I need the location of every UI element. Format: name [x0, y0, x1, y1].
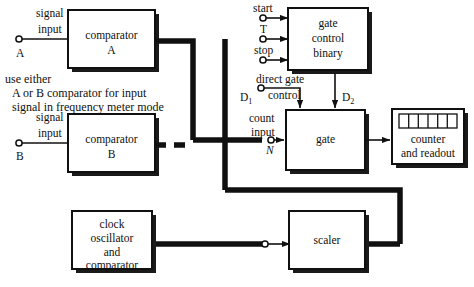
- count-input-name-n: N: [265, 144, 275, 156]
- counter-label-2: and readout: [401, 147, 456, 159]
- counter-label-1: counter: [411, 133, 446, 145]
- direct-gate-label: direct gate: [256, 73, 304, 86]
- d2-label: D2: [342, 91, 354, 106]
- gate-label: gate: [316, 133, 335, 146]
- gate-control-binary-label-1: gate: [318, 17, 337, 30]
- signal-input-b-label-2: input: [38, 127, 62, 140]
- clock-label-2: oscillator: [91, 232, 134, 244]
- t-label: T: [260, 23, 267, 35]
- terminal-stop: [260, 57, 266, 63]
- terminal-clock-out: [262, 241, 268, 247]
- note-line-2: A or B comparator for input: [12, 86, 147, 100]
- gate-control-binary-label-3: binary: [313, 47, 343, 60]
- diagram-canvas: comparator A comparator B gate control b…: [0, 0, 474, 287]
- signal-input-b-name: B: [16, 150, 24, 162]
- clock-label-3: and: [104, 246, 121, 258]
- control-label: control: [268, 89, 301, 101]
- terminal-t: [260, 36, 266, 42]
- clock-label-4: comparator: [86, 259, 139, 272]
- terminal-signal-input-b: [16, 140, 22, 146]
- note-line-1: use either: [5, 72, 51, 86]
- count-input-label-1: count: [249, 112, 275, 124]
- wire-comparator-a-out: [155, 41, 193, 140]
- block-diagram: comparator A comparator B gate control b…: [0, 0, 474, 287]
- signal-input-a-label-2: input: [38, 23, 62, 36]
- signal-input-a-name: A: [16, 47, 25, 59]
- comparator-a-label-2: A: [107, 44, 116, 56]
- terminal-signal-input-a: [16, 36, 22, 42]
- terminal-direct-gate-control: [258, 85, 264, 91]
- comparator-a-label-1: comparator: [85, 29, 138, 42]
- gate-control-binary-label-2: control: [312, 32, 345, 44]
- comparator-b-label-2: B: [108, 148, 116, 160]
- start-label: start: [253, 2, 274, 14]
- readout-display: [399, 114, 457, 128]
- note-line-3: signal in frequency meter mode: [12, 100, 164, 114]
- count-input-label-2: input: [251, 126, 275, 139]
- clock-label-1: clock: [100, 218, 125, 230]
- comparator-b-label-1: comparator: [85, 133, 138, 146]
- scaler-label: scaler: [314, 234, 341, 246]
- stop-label: stop: [254, 44, 273, 57]
- d1-label: D1: [240, 91, 252, 106]
- signal-input-a-label-1: signal: [36, 7, 63, 20]
- terminal-start: [260, 15, 266, 21]
